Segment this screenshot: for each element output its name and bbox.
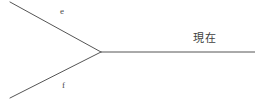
diagram-canvas: e f 現在 (0, 0, 255, 109)
diagram-lines (0, 0, 255, 109)
branch-label-e: e (60, 7, 64, 16)
branch-label-f: f (62, 81, 65, 90)
present-label: 現在 (193, 33, 216, 44)
branch-line-e (10, 2, 101, 52)
branch-line-f (10, 52, 101, 98)
caption-fragment (86, 100, 166, 109)
